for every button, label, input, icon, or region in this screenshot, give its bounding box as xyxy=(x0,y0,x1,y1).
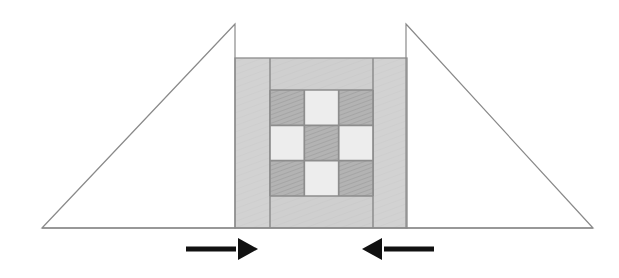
left-side-column xyxy=(235,58,270,228)
checker-cell-r2c0 xyxy=(270,161,304,196)
left-arrow-shaft xyxy=(186,247,236,252)
checker-cell-r0c2 xyxy=(339,90,373,125)
right-side-column xyxy=(373,58,407,228)
checker-cell-r2c1 xyxy=(304,161,338,196)
checker-cell-r1c1 xyxy=(304,125,338,160)
checker-cell-r1c0 xyxy=(270,125,304,160)
right-arrow-shaft xyxy=(384,247,434,252)
schematic-svg xyxy=(0,0,619,278)
checkerboard-grid xyxy=(270,90,373,196)
figure-root: Compression test schematic: wedge anvils… xyxy=(0,0,619,278)
checker-cell-r0c0 xyxy=(270,90,304,125)
checker-cell-r0c1 xyxy=(304,90,338,125)
checker-cell-r1c2 xyxy=(339,125,373,160)
checker-cell-r2c2 xyxy=(339,161,373,196)
